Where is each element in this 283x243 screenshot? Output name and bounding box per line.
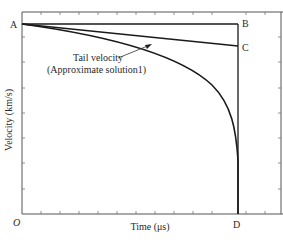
line-a-c xyxy=(22,24,238,46)
annotation-line-2: (Approximate solution1) xyxy=(47,64,146,76)
y-axis-label: Velocity (km/s) xyxy=(3,89,15,151)
point-label-c: C xyxy=(242,42,249,53)
tail-velocity-curve xyxy=(22,24,238,214)
velocity-time-chart: A B C D O Tail velocity (Approximate sol… xyxy=(0,0,283,243)
point-label-d: D xyxy=(233,219,240,230)
point-label-b: B xyxy=(242,18,249,29)
x-axis-label: Time (μs) xyxy=(130,221,169,233)
annotation-line-1: Tail velocity xyxy=(73,52,123,63)
origin-label: O xyxy=(13,217,20,228)
point-label-a: A xyxy=(10,19,18,30)
series xyxy=(22,24,238,214)
